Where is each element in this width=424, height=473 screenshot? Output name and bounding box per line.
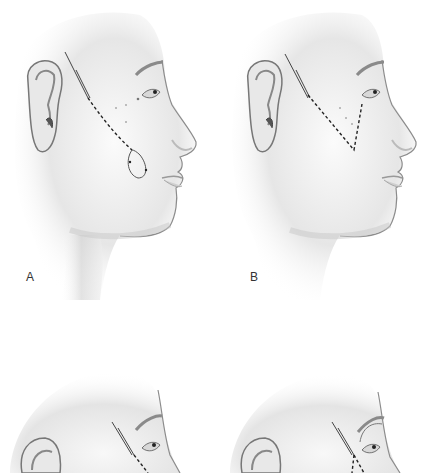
panel-a: A bbox=[0, 0, 212, 300]
panel-d bbox=[212, 360, 424, 473]
head-profile-illustration bbox=[212, 360, 424, 473]
panel-label-a: A bbox=[26, 270, 34, 284]
head-profile-illustration bbox=[0, 0, 212, 300]
panel-label-b: B bbox=[250, 270, 258, 284]
panel-c bbox=[0, 360, 212, 473]
head-profile-illustration bbox=[0, 360, 212, 473]
head-profile-illustration bbox=[212, 0, 424, 300]
panel-b: B bbox=[212, 0, 424, 300]
